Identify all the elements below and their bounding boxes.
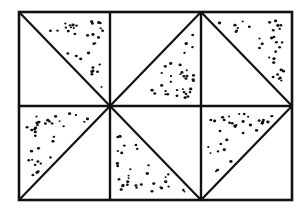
stipple-dot [101, 86, 103, 88]
stipple-dot [51, 122, 54, 124]
stipple-dot [86, 34, 89, 37]
stipple-dot [101, 30, 104, 33]
stipple-dot [209, 119, 212, 122]
stipple-dot [90, 73, 93, 75]
stipple-dot [189, 88, 192, 91]
stipple-dot [128, 177, 130, 179]
stipple-dot [279, 28, 281, 30]
stipple-dot [129, 168, 131, 170]
stipple-dot [116, 162, 119, 165]
stipple-dot [280, 24, 283, 26]
stipple-dot [258, 119, 261, 122]
stipple-dot [71, 24, 74, 27]
stipple-dot [123, 144, 126, 146]
stipple-dot [249, 123, 252, 126]
stipple-dot [160, 84, 163, 87]
stipple-dot [275, 51, 278, 53]
stipple-dot [49, 30, 52, 33]
stipple-dot [182, 189, 185, 191]
stipple-dot [237, 27, 239, 29]
stipple-dot [236, 29, 239, 31]
stipple-dot [223, 148, 226, 151]
stipple-dot [186, 95, 189, 98]
stipple-dot [37, 147, 40, 150]
stipple-dot [182, 88, 184, 90]
stipple-dot [27, 159, 30, 161]
stipple-dot [228, 122, 231, 124]
stipple-dot [140, 183, 143, 186]
stipple-dot [100, 27, 102, 29]
stipple-dot [242, 120, 245, 123]
stipple-dot [258, 37, 260, 39]
stipple-dot [209, 152, 211, 154]
stipple-dot [221, 116, 224, 119]
cell-diagonal [19, 12, 110, 106]
stipple-dot [176, 89, 179, 91]
stipple-dot [164, 93, 166, 95]
stipple-dot [219, 130, 222, 133]
stipple-dot [231, 122, 234, 125]
stipple-dot [247, 116, 249, 118]
stipple-dot [68, 112, 71, 115]
stipple-dot [218, 21, 221, 24]
stipple-dot [270, 37, 273, 40]
stipple-dot [278, 78, 280, 80]
stipple-dot [53, 136, 56, 138]
stipple-dot [70, 26, 72, 28]
stipple-dot [272, 29, 275, 32]
diagram-canvas [0, 0, 305, 212]
stipple-dot [90, 20, 93, 23]
stipple-dot [248, 26, 251, 29]
stipple-dot [118, 178, 121, 181]
stipple-dot [266, 121, 269, 124]
stipple-dot [121, 185, 123, 187]
stipple-dot [184, 96, 187, 99]
stipple-dot [46, 119, 49, 122]
stipple-dot [91, 33, 94, 36]
stipple-dot [35, 116, 37, 118]
stipple-dot [116, 165, 119, 167]
stipple-dot [91, 66, 94, 69]
stipple-dot [151, 190, 154, 193]
stipple-dot [36, 124, 39, 126]
stipple-dot [272, 76, 275, 79]
stipple-dot [75, 55, 78, 58]
stipple-dot [64, 22, 66, 24]
stipple-dot [281, 41, 284, 43]
stipple-dot [191, 46, 194, 48]
stipple-dot [128, 175, 130, 177]
stipple-dot [166, 93, 169, 96]
stipple-dot [182, 75, 185, 78]
stipple-dot [178, 63, 181, 66]
stipple-dot [272, 57, 275, 60]
stipple-dot [258, 47, 261, 49]
stipple-dot [184, 77, 187, 80]
stipple-dot [134, 184, 137, 187]
stipple-dot [37, 121, 40, 124]
stipple-dot [119, 135, 122, 138]
stipple-dot [167, 173, 169, 175]
stipple-dot [126, 180, 129, 183]
stipple-dot [49, 156, 52, 158]
stipple-dot [34, 130, 37, 133]
stipple-dot [117, 150, 119, 152]
stipple-dot [216, 169, 219, 172]
stipple-dot [217, 150, 220, 152]
stipple-dot [271, 115, 274, 117]
stipple-dot [219, 143, 222, 145]
stipple-dot [167, 186, 169, 188]
stipple-dot [170, 75, 172, 77]
stipple-dot [228, 116, 230, 118]
stipple-dot [184, 42, 187, 45]
stipple-dot [276, 73, 279, 76]
stipple-dot [268, 21, 271, 24]
stipple-dot [223, 119, 226, 122]
stipple-dot [185, 93, 188, 95]
stipple-dot [179, 73, 181, 75]
stipple-dot [69, 24, 72, 26]
stipple-dot [161, 72, 163, 74]
cell-diagonal [110, 12, 201, 106]
stipple-dot [170, 81, 173, 83]
stipple-dot [186, 75, 189, 77]
stipple-dot [36, 160, 39, 163]
